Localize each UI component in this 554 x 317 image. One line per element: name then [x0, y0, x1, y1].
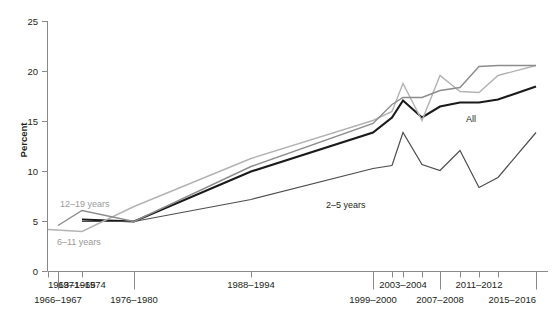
series-annotation-2-5-years: 2–5 years	[326, 200, 366, 210]
y-axis-title: Percent	[18, 122, 29, 158]
x-tick-label: 2003–2004	[379, 279, 427, 290]
x-tick-label: 1966–1967	[34, 294, 82, 305]
y-axis-tick-labels: 0510152025	[27, 16, 38, 277]
y-tick-label: 5	[33, 216, 38, 227]
x-tick-label: 1988–1994	[227, 279, 275, 290]
x-tick-label: 2007–2008	[416, 294, 464, 305]
y-tick-label: 25	[27, 16, 38, 27]
line-chart-svg: 0510152025 Percent 1963–19651971–1974198…	[0, 0, 554, 317]
chart-container: 0510152025 Percent 1963–19651971–1974198…	[0, 0, 554, 317]
series-line-6-11-years	[48, 66, 536, 232]
series-line-12-19-years	[58, 66, 536, 226]
x-axis-tick-labels: 1963–19651971–19741988–19942003–20042011…	[34, 279, 536, 305]
x-tick-label: 2015–2016	[488, 294, 536, 305]
x-tick-label: 1976–1980	[110, 294, 158, 305]
x-tick-label: 2011–2012	[456, 279, 503, 290]
y-tick-label: 15	[27, 116, 38, 127]
series-annotation-12-19-years: 12–19 years	[60, 199, 110, 209]
y-axis-ticks	[42, 22, 48, 272]
series-line-all	[82, 87, 536, 222]
series-annotation-all: All	[466, 114, 476, 124]
y-tick-label: 0	[33, 266, 38, 277]
series-annotation-6-11-years: 6–11 years	[57, 237, 101, 247]
series-group	[48, 66, 536, 232]
x-tick-label: 1971–1974	[58, 279, 106, 290]
x-tick-label: 1999–2000	[349, 294, 397, 305]
y-tick-label: 20	[27, 66, 38, 77]
y-tick-label: 10	[27, 166, 38, 177]
